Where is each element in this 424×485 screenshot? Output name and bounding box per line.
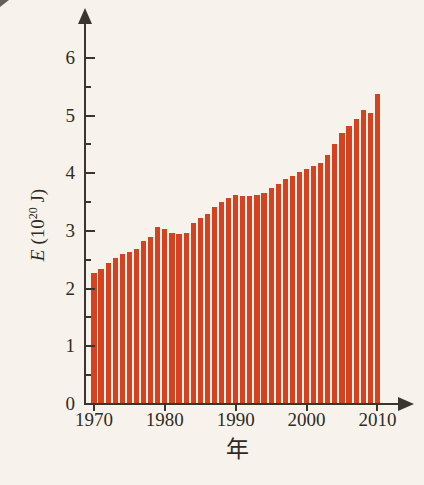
energy-consumption-bar-chart: 0123456 19701980199020002010 E(1020 J) 年 [0, 0, 424, 485]
bar-1979 [155, 227, 160, 404]
bar-1973 [113, 258, 118, 404]
bar-1986 [205, 214, 210, 404]
bar-1985 [198, 218, 203, 404]
bar-1981 [169, 233, 174, 404]
bar-1996 [276, 184, 281, 404]
bar-2004 [332, 144, 337, 404]
bar-1988 [219, 202, 224, 404]
bar-1983 [184, 233, 189, 404]
y-tick-2 [85, 288, 95, 290]
bar-1995 [269, 188, 274, 404]
y-axis-arrow-icon [78, 8, 92, 24]
y-tick-label-1: 1 [41, 334, 75, 358]
bar-1975 [127, 252, 132, 404]
bar-1999 [297, 172, 302, 404]
y-tick-1 [85, 345, 95, 347]
y-tick-label-4: 4 [41, 161, 75, 185]
bar-2009 [368, 113, 373, 404]
bar-2003 [325, 155, 330, 404]
bar-1977 [141, 241, 146, 404]
bar-1980 [162, 229, 167, 404]
x-tick-label-1990: 1990 [204, 408, 268, 432]
y-tick-5 [85, 115, 95, 117]
bar-1970 [91, 273, 96, 404]
bar-1971 [98, 269, 103, 404]
x-tick-label-1980: 1980 [133, 408, 197, 432]
bar-1982 [176, 234, 181, 404]
bar-1991 [240, 196, 245, 404]
x-axis-line [84, 403, 406, 405]
bar-1984 [191, 223, 196, 404]
x-tick-label-1970: 1970 [62, 408, 126, 432]
y-tick-label-2: 2 [41, 277, 75, 301]
bar-2002 [318, 163, 323, 404]
bar-1987 [212, 207, 217, 404]
y-tick-label-6: 6 [41, 46, 75, 70]
y-tick-6 [85, 57, 95, 59]
x-tick-label-2010: 2010 [345, 408, 409, 432]
y-axis-line [84, 16, 86, 405]
bar-2010 [375, 94, 380, 404]
y-axis-unit-exponent: 20 [26, 207, 40, 219]
y-axis-unit-prefix: (10 [27, 219, 48, 244]
bar-1974 [120, 254, 125, 404]
bar-1997 [283, 179, 288, 404]
bar-1972 [106, 263, 111, 404]
y-tick-4 [85, 172, 95, 174]
x-tick-label-2000: 2000 [275, 408, 339, 432]
y-tick-label-5: 5 [41, 104, 75, 128]
x-axis-title: 年 [207, 436, 267, 464]
bar-2001 [311, 166, 316, 404]
bar-2005 [339, 133, 344, 404]
bar-1992 [247, 196, 252, 404]
bar-1994 [261, 193, 266, 404]
bar-2007 [354, 119, 359, 404]
bar-1993 [254, 195, 259, 404]
bar-1990 [233, 195, 238, 404]
bar-1989 [226, 198, 231, 404]
bar-2006 [346, 126, 351, 404]
bar-1978 [148, 237, 153, 404]
y-axis-title: E(1020 J) [20, 150, 46, 300]
bar-2000 [304, 169, 309, 404]
bar-1998 [290, 176, 295, 404]
bar-1976 [134, 249, 139, 404]
bar-2008 [361, 110, 366, 404]
scan-artifact [0, 0, 9, 7]
y-axis-variable: E [27, 250, 48, 262]
plot-area: 0123456 19701980199020002010 E(1020 J) 年 [0, 0, 424, 485]
y-axis-unit-suffix: J) [27, 189, 48, 207]
y-tick-3 [85, 230, 95, 232]
